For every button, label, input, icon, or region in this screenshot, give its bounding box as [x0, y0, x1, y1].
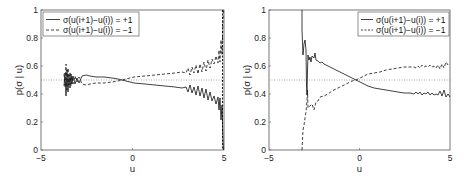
right-xtick-neg5: −5 — [264, 153, 274, 163]
left-xtick-neg5: −5 — [36, 153, 46, 163]
left-legend-label-minus1: σ(u(i+1)−u(i)) = −1 — [63, 25, 133, 35]
right-xtick-0: 0 — [357, 153, 362, 163]
right-ytick-1: 1 — [261, 5, 266, 15]
left-ytick-1: 1 — [33, 5, 38, 15]
right-ytick-0.6: 0.6 — [254, 61, 266, 71]
right-legend-label-minus1: σ(u(i+1)−u(i)) = −1 — [376, 25, 446, 35]
right-ytick-0.8: 0.8 — [254, 33, 266, 43]
left-xtick-0: 0 — [130, 153, 135, 163]
left-plot: 0 0.2 0.4 0.6 0.8 1 −5 0 5 u p(σ | u) σ(… — [13, 5, 227, 174]
right-plot: 0 0.2 0.4 0.6 0.8 1 −5 0 5 u p(σ | u) σ(… — [241, 5, 453, 174]
right-legend: σ(u(i+1)−u(i)) = +1 σ(u(i+1)−u(i)) = −1 — [358, 12, 449, 36]
left-legend: σ(u(i+1)−u(i)) = +1 σ(u(i+1)−u(i)) = −1 — [43, 12, 139, 36]
left-ytick-0.6: 0.6 — [26, 61, 38, 71]
figure: 0 0.2 0.4 0.6 0.8 1 −5 0 5 u p(σ | u) σ(… — [0, 0, 464, 179]
right-ytick-0.2: 0.2 — [254, 117, 266, 127]
right-ytick-0.4: 0.4 — [254, 89, 266, 99]
right-xtick-5: 5 — [448, 153, 453, 163]
left-ytick-0.4: 0.4 — [26, 89, 38, 99]
right-y-axis-label: p(σ | u) — [241, 65, 252, 96]
left-ytick-0.8: 0.8 — [26, 33, 38, 43]
left-ytick-0.2: 0.2 — [26, 117, 38, 127]
left-x-axis-label: u — [130, 163, 135, 174]
left-y-axis-label: p(σ | u) — [13, 65, 24, 96]
left-xtick-5: 5 — [222, 153, 227, 163]
right-x-axis-label: u — [357, 163, 362, 174]
right-legend-label-plus1: σ(u(i+1)−u(i)) = +1 — [376, 15, 446, 25]
left-legend-label-plus1: σ(u(i+1)−u(i)) = +1 — [63, 15, 133, 25]
